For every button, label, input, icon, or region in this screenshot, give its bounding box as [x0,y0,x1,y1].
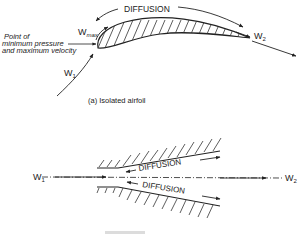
diagram-canvas: DIFFUSION Wmax Point of minimum pressure… [0,0,300,235]
w1-label-a: W1 [64,68,77,79]
diffusion-arrow-left [96,9,118,21]
w-max-label: Wmax [78,27,99,38]
lower-diffusion-label: DIFFUSION [142,180,186,196]
upper-diffusion-label: DIFFUSION [138,157,182,173]
diffusion-label-top: DIFFUSION [124,4,170,14]
annotation-line-3: and maximum velocity [2,46,77,55]
w2-label-b: W2 [285,173,298,184]
lower-diffusion-arrow-right [202,196,220,199]
airfoil-shape [98,18,250,49]
caption-a: (a) Isolated airfoil [88,96,146,105]
lower-wall-hatching [97,188,213,218]
w2-arrow-a [252,41,296,56]
caption-b-remnant [105,231,145,234]
w2-label-a: W2 [254,31,267,42]
isolated-airfoil-group: DIFFUSION Wmax Point of minimum pressure… [2,4,296,105]
diffuser-channel-group: W1 W2 [33,138,298,234]
upper-diffusion-arrow-left [126,170,136,172]
w1-label-b: W1 [33,172,46,183]
upper-diffusion-arrow-right [200,157,220,160]
lower-diffusion-arrow-left [127,182,138,184]
airfoil-diffusion-figure: DIFFUSION Wmax Point of minimum pressure… [0,0,300,235]
